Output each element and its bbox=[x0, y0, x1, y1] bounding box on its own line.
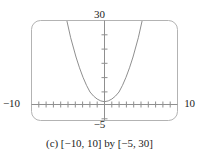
plot-area: 30 −5 −10 10 bbox=[0, 0, 199, 132]
x-max-label: 10 bbox=[184, 98, 195, 109]
y-min-label: −5 bbox=[0, 119, 199, 130]
figure-caption: (c) [−10, 10] by [−5, 30] bbox=[0, 136, 199, 150]
x-min-label: −10 bbox=[3, 98, 20, 109]
y-max-label: 30 bbox=[0, 9, 199, 20]
graph-figure: 30 −5 −10 10 (c) [−10, 10] by [−5, 30] bbox=[0, 0, 199, 159]
